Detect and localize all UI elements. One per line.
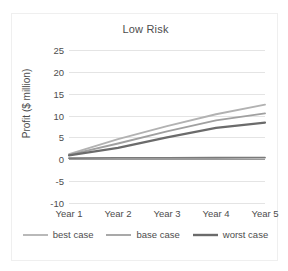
x-axis-tick-label: Year 5: [251, 208, 278, 219]
x-axis-tick-label: Year 1: [55, 208, 82, 219]
x-axis-tick-label: Year 3: [153, 208, 180, 219]
legend-item-worst-case[interactable]: worst case: [193, 229, 268, 240]
gridline: [69, 203, 265, 204]
series-line-baseline: [69, 158, 265, 159]
legend-label: best case: [53, 229, 94, 240]
y-axis-tick-label: 0: [59, 154, 64, 165]
legend-line-swatch: [106, 232, 131, 238]
y-axis-tick-label: 15: [53, 88, 64, 99]
y-axis-tick-label: 10: [53, 110, 64, 121]
plot-area: 2520151050-5-10 Year 1Year 2Year 3Year 4…: [69, 50, 265, 203]
chart-title: Low Risk: [12, 23, 279, 35]
series-group: [69, 50, 265, 203]
x-axis-tick-label: Year 4: [202, 208, 229, 219]
series-line-base-case: [69, 113, 265, 155]
y-axis-title: Profit ($ million): [21, 44, 32, 164]
chart-container: Low Risk Profit ($ million) 2520151050-5…: [11, 13, 278, 261]
legend-line-swatch: [23, 232, 48, 238]
y-axis-tick-label: 5: [59, 132, 64, 143]
legend-line-swatch: [193, 232, 218, 238]
chart-legend: best casebase caseworst case: [12, 229, 279, 240]
y-axis-tick-label: 20: [53, 66, 64, 77]
series-line-worst-case: [69, 123, 265, 156]
y-axis-tick-label: -5: [56, 176, 64, 187]
x-axis-tick-label: Year 2: [104, 208, 131, 219]
legend-label: base case: [136, 229, 179, 240]
legend-label: worst case: [223, 229, 268, 240]
legend-item-best-case[interactable]: best case: [23, 229, 94, 240]
series-line-best-case: [69, 105, 265, 154]
legend-item-base-case[interactable]: base case: [106, 229, 179, 240]
y-axis-tick-label: 25: [53, 45, 64, 56]
y-axis-tick-label: -10: [50, 198, 64, 209]
